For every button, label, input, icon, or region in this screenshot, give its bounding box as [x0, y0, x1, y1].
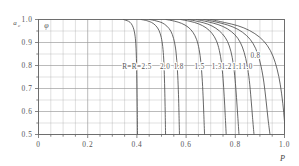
phi-symbol: φ: [44, 21, 49, 30]
curve-label-R-0.8: 0.8: [250, 52, 260, 60]
y-axis-title: a: [13, 19, 17, 27]
curve-label-R-1.3: 1.3: [212, 63, 222, 71]
lmtd-correction-chart: 00.20.40.60.81.0 0.50.60.70.80.91.0 R=R=…: [0, 0, 299, 166]
x-tick-label: 0: [36, 140, 40, 149]
curve-label-R-1.2: 1.2: [222, 63, 232, 71]
curve-label-R-1.1: 1.1: [232, 63, 242, 71]
curve-label-R-1.0: 1.0: [243, 63, 253, 71]
x-tick-label: 0.2: [82, 140, 93, 149]
y-tick-label: 1.0: [21, 15, 32, 24]
y-tick-label: 0.5: [21, 130, 32, 139]
curve-label-R-1.8: 1.8: [174, 63, 184, 71]
x-tick-label: 1.0: [279, 140, 290, 149]
x-axis-title: P: [279, 154, 285, 163]
curve-label-R-2.0: 2.0: [160, 63, 170, 71]
curve-label-R-2.5: R=R=2.5: [122, 63, 151, 71]
x-tick-label: 0.6: [181, 140, 192, 149]
y-tick-label: 0.9: [21, 38, 32, 47]
y-tick-label: 0.7: [21, 84, 32, 93]
y-tick-label: 0.8: [21, 61, 32, 70]
chart-root: 00.20.40.60.81.0 0.50.60.70.80.91.0 R=R=…: [0, 0, 299, 166]
y-tick-label: 0.6: [21, 107, 32, 116]
x-tick-label: 0.8: [230, 140, 241, 149]
curve-label-R-1.5: 1.5: [195, 63, 205, 71]
x-tick-label: 0.4: [131, 140, 142, 149]
